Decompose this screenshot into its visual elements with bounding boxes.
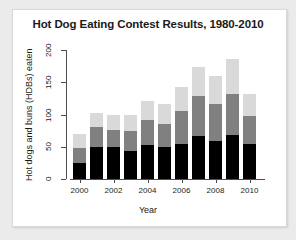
bar-2003: [124, 0, 137, 179]
x-tick-label: 2008: [199, 186, 233, 195]
x-tick-mark: [250, 179, 251, 183]
y-tick-mark: [61, 115, 66, 116]
bar-2007: [192, 0, 205, 179]
bar-segment-third-place: [141, 101, 154, 120]
bar-segment-runner-up: [243, 116, 256, 144]
x-axis-label: Year: [0, 205, 296, 215]
x-tick-label: 2010: [233, 186, 267, 195]
bar-segment-third-place: [158, 104, 171, 123]
bar-segment-winner: [141, 145, 154, 179]
y-tick-label: 200: [44, 38, 53, 62]
bar-2010: [243, 0, 256, 179]
bar-segment-third-place: [226, 59, 239, 94]
bar-segment-third-place: [192, 67, 205, 97]
x-axis-line: [70, 179, 265, 180]
x-tick-label: 2004: [131, 186, 165, 195]
bar-segment-winner: [107, 147, 120, 179]
x-tick-label: 2000: [63, 186, 97, 195]
bar-segment-winner: [226, 135, 239, 179]
bar-segment-winner: [158, 147, 171, 179]
bar-2006: [175, 0, 188, 179]
bar-2004: [141, 0, 154, 179]
bar-segment-winner: [243, 144, 256, 179]
y-axis-label: Hot dogs and buns (HDBs) eaten: [24, 40, 34, 190]
bar-segment-runner-up: [73, 148, 86, 163]
bar-segment-winner: [124, 151, 137, 179]
bar-2001: [90, 0, 103, 179]
bar-segment-third-place: [209, 76, 222, 104]
bar-segment-winner: [73, 163, 86, 179]
bar-segment-winner: [90, 147, 103, 179]
bar-segment-third-place: [90, 113, 103, 127]
y-axis-line: [66, 50, 67, 179]
x-tick-mark: [148, 179, 149, 183]
bar-segment-runner-up: [158, 124, 171, 148]
bar-segment-runner-up: [175, 111, 188, 145]
plot-area: Hot dogs and buns (HDBs) eaten Year 0501…: [0, 0, 296, 240]
bar-2009: [226, 0, 239, 179]
y-tick-mark: [61, 179, 66, 180]
y-tick-label: 100: [44, 103, 53, 127]
y-tick-mark: [61, 50, 66, 51]
bar-segment-runner-up: [124, 131, 137, 150]
bar-segment-runner-up: [141, 120, 154, 145]
bar-2008: [209, 0, 222, 179]
bar-2002: [107, 0, 120, 179]
x-tick-label: 2002: [97, 186, 131, 195]
bar-2005: [158, 0, 171, 179]
bar-segment-third-place: [175, 87, 188, 110]
y-tick-mark: [61, 82, 66, 83]
bar-segment-runner-up: [90, 127, 103, 147]
bar-segment-winner: [175, 144, 188, 179]
x-tick-mark: [114, 179, 115, 183]
x-tick-mark: [80, 179, 81, 183]
y-tick-mark: [61, 147, 66, 148]
bar-segment-runner-up: [192, 96, 205, 136]
bar-segment-runner-up: [107, 130, 120, 147]
y-tick-label: 0: [44, 167, 53, 191]
bar-segment-winner: [209, 141, 222, 179]
bar-segment-runner-up: [209, 104, 222, 141]
chart-screenshot: Hot Dog Eating Contest Results, 1980-201…: [0, 0, 296, 240]
x-tick-mark: [216, 179, 217, 183]
x-tick-mark: [182, 179, 183, 183]
bar-segment-winner: [192, 136, 205, 179]
y-tick-label: 50: [44, 135, 53, 159]
y-tick-label: 150: [44, 70, 53, 94]
bar-segment-third-place: [107, 115, 120, 130]
bar-segment-third-place: [243, 94, 256, 117]
bar-segment-third-place: [73, 134, 86, 148]
bar-segment-third-place: [124, 115, 137, 131]
bar-segment-runner-up: [226, 94, 239, 135]
x-tick-label: 2006: [165, 186, 199, 195]
bar-2000: [73, 0, 86, 179]
